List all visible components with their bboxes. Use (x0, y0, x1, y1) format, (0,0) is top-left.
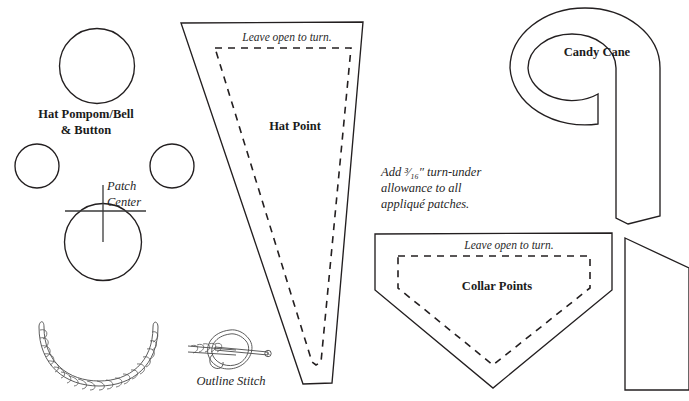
outline-stitch-label: Outline Stitch (196, 374, 265, 388)
patch-center-label-line2: Center (107, 195, 141, 209)
hat-pompom-label-line1: Hat Pompom/Bell (38, 107, 134, 121)
outline-stitch-diagram (188, 330, 271, 369)
pattern-sheet: Hat Pompom/Bell & Button Patch Center Le… (0, 0, 689, 401)
allowance-note-line3: appliqué patches. (381, 197, 469, 211)
hat-pompom-circle[interactable] (60, 29, 135, 104)
partial-piece-right-cutline[interactable] (625, 238, 689, 390)
allowance-note-line2: allowance to all (381, 181, 462, 195)
collar-points-seam-note: Leave open to turn. (463, 239, 553, 252)
hat-pompom-label-line2: & Button (61, 123, 111, 137)
hat-point-seam-note: Leave open to turn. (241, 31, 331, 44)
pattern-sheet-canvas: Hat Pompom/Bell & Button Patch Center Le… (0, 0, 689, 401)
patch-center-label-line1: Patch (106, 179, 136, 193)
hat-point-label: Hat Point (269, 119, 322, 133)
candy-cane-label: Candy Cane (564, 45, 631, 59)
collar-points-label: Collar Points (462, 279, 532, 293)
bell-circle-small-left[interactable] (15, 144, 59, 188)
twisted-cord-diagram (39, 322, 158, 390)
allowance-note-line1: Add ³⁄₁₆″ turn-under (380, 165, 481, 179)
button-circle-small-right[interactable] (150, 144, 194, 188)
candy-cane-cutline[interactable] (510, 8, 660, 224)
